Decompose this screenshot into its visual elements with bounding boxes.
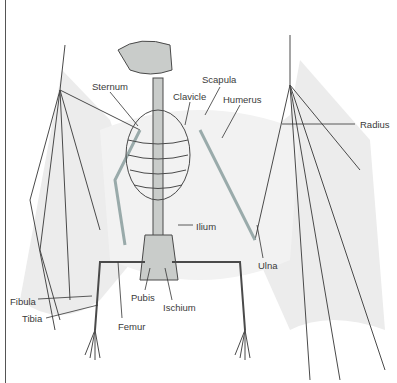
skull	[118, 41, 172, 74]
label-sternum: Sternum	[92, 82, 128, 92]
label-fibula: Fibula	[10, 297, 36, 307]
label-radius: Radius	[360, 120, 390, 130]
label-clavicle: Clavicle	[173, 92, 206, 102]
label-humerus: Humerus	[223, 95, 262, 105]
label-ulna: Ulna	[258, 261, 278, 271]
label-pubis: Pubis	[131, 293, 155, 303]
label-femur: Femur	[118, 322, 145, 332]
pelvis	[140, 235, 178, 280]
bat-skeleton-diagram: Sternum Scapula Clavicle Humerus Radius …	[0, 0, 397, 383]
label-tibia: Tibia	[22, 314, 42, 324]
label-ilium: Ilium	[196, 222, 216, 232]
spine	[153, 78, 163, 238]
skeleton-illustration	[0, 0, 397, 383]
body-membrane	[100, 110, 300, 280]
label-ischium: Ischium	[163, 303, 196, 313]
label-scapula: Scapula	[202, 75, 236, 85]
